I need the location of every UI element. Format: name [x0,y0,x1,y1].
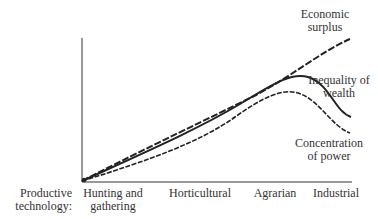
tick-label-line2: gathering [76,200,150,213]
tick-agrarian: Agrarian [245,187,305,200]
label-line2: of power [284,150,374,163]
x-axis-title-line2: technology: [0,200,72,213]
label-line2: surplus [290,21,360,34]
tick-industrial: Industrial [304,187,368,200]
tick-label-line1: Industrial [304,187,368,200]
tick-horticultural: Horticultural [160,187,240,200]
label-inequality-of-wealth: Inequality of wealth [300,74,378,100]
tick-label-line1: Agrarian [245,187,305,200]
label-concentration-of-power: Concentration of power [284,137,374,163]
x-axis-title: Productive technology: [0,187,72,213]
label-line2: wealth [300,87,378,100]
tick-hunting-gathering: Hunting and gathering [76,187,150,213]
tick-label-line1: Horticultural [160,187,240,200]
label-economic-surplus: Economic surplus [290,8,360,34]
origin-marker [82,178,86,182]
